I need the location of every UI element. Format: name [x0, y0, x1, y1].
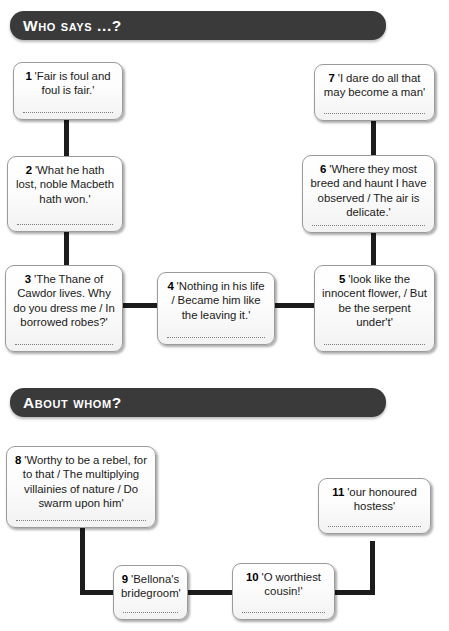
connector-8-to-9-horizontal	[80, 590, 115, 595]
connector-8-vertical	[80, 527, 85, 595]
answer-line-3[interactable]	[15, 343, 113, 345]
section-header-who-says: Who says ...?	[10, 11, 386, 40]
quote-box-11[interactable]: 11 'our honoured hostess'	[318, 478, 431, 534]
connector-11-vertical	[370, 541, 375, 595]
answer-line-5[interactable]	[324, 343, 425, 345]
answer-line-7[interactable]	[324, 112, 425, 114]
quote-box-1[interactable]: 1 'Fair is foul and foul is fair.'	[13, 62, 123, 120]
quote-number-8: 8	[15, 454, 21, 466]
quote-body-10: 'O worthiest cousin!'	[262, 571, 321, 597]
quote-box-8[interactable]: 8 'Worthy to be a rebel, for to that / T…	[6, 446, 156, 528]
quote-body-4: 'Nothing in his life / Became him like t…	[172, 280, 265, 321]
quote-text-7: 7 'I dare do all that may become a man'	[322, 71, 427, 100]
quote-box-3[interactable]: 3 'The Thane of Cawdor lives. Why do you…	[5, 265, 123, 352]
connector-9-to-10	[186, 590, 234, 595]
quote-number-11: 11	[332, 486, 344, 498]
quote-number-5: 5	[339, 273, 345, 285]
quote-body-1: 'Fair is foul and foul is fair.'	[35, 70, 111, 96]
quote-text-1: 1 'Fair is foul and foul is fair.'	[21, 69, 115, 98]
quote-box-5[interactable]: 5 'look like the innocent flower, / But …	[314, 265, 435, 352]
quote-box-4[interactable]: 4 'Nothing in his life / Became him like…	[157, 272, 275, 345]
quote-text-11: 11 'our honoured hostess'	[326, 485, 423, 514]
section-header-about-whom: About whom?	[10, 388, 386, 417]
section-header-label: Who says ...?	[23, 18, 122, 34]
quote-box-7[interactable]: 7 'I dare do all that may become a man'	[314, 64, 435, 121]
connector-11-to-10-horizontal	[333, 590, 375, 595]
quote-number-3: 3	[25, 273, 31, 285]
quote-box-9[interactable]: 9 'Bellona's bridegroom'	[113, 565, 188, 620]
connector-4-to-5	[272, 303, 316, 308]
connector-6-to-7	[371, 120, 376, 157]
answer-line-1[interactable]	[23, 111, 113, 113]
quote-text-4: 4 'Nothing in his life / Became him like…	[165, 279, 267, 322]
quote-number-2: 2	[26, 164, 32, 176]
quote-number-4: 4	[167, 280, 173, 292]
connector-3-to-4	[122, 303, 160, 308]
answer-line-11[interactable]	[328, 525, 421, 527]
quote-number-7: 7	[329, 72, 335, 84]
quote-body-11: 'our honoured hostess'	[347, 486, 417, 512]
quote-body-8: 'Worthy to be a rebel, for to that / The…	[23, 454, 147, 509]
quote-body-9: 'Bellona's bridegroom'	[121, 573, 181, 599]
quote-text-6: 6 'Where they most breed and haunt I hav…	[310, 162, 427, 219]
quote-box-6[interactable]: 6 'Where they most breed and haunt I hav…	[302, 155, 435, 233]
quote-number-6: 6	[320, 163, 326, 175]
quote-text-9: 9 'Bellona's bridegroom'	[121, 572, 180, 601]
quote-text-3: 3 'The Thane of Cawdor lives. Why do you…	[13, 272, 115, 329]
quote-box-2[interactable]: 2 'What he hath lost, noble Macbeth hath…	[7, 156, 123, 232]
quote-body-6: 'Where they most breed and haunt I have …	[311, 163, 427, 218]
quote-number-1: 1	[25, 70, 31, 82]
quote-number-9: 9	[122, 573, 128, 585]
section-header-label-2: About whom?	[23, 395, 122, 411]
quote-number-10: 10	[246, 571, 259, 583]
quote-text-2: 2 'What he hath lost, noble Macbeth hath…	[15, 163, 115, 206]
quote-text-5: 5 'look like the innocent flower, / But …	[322, 272, 427, 329]
quote-text-8: 8 'Worthy to be a rebel, for to that / T…	[14, 453, 148, 510]
quote-box-10[interactable]: 10 'O worthiest cousin!'	[232, 563, 335, 620]
answer-line-2[interactable]	[17, 223, 113, 225]
quote-body-7: 'I dare do all that may become a man'	[324, 72, 425, 98]
worksheet-page: Who says ...? 1 'Fair is foul and foul i…	[0, 0, 449, 631]
quote-text-10: 10 'O worthiest cousin!'	[240, 570, 327, 599]
answer-line-10[interactable]	[242, 611, 325, 613]
connector-5-to-6	[371, 230, 376, 268]
answer-line-9[interactable]	[123, 611, 178, 613]
connector-2-to-3	[64, 230, 69, 268]
answer-line-8[interactable]	[16, 519, 146, 521]
answer-line-4[interactable]	[167, 336, 265, 338]
connector-1-to-2	[64, 118, 69, 158]
answer-line-6[interactable]	[312, 224, 425, 226]
quote-body-5: 'look like the innocent flower, / But be…	[322, 273, 427, 328]
